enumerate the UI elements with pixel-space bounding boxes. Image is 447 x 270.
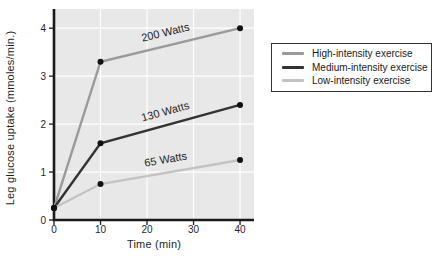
- x-axis-title: Time (min): [127, 238, 181, 250]
- chart-legend: High-intensity exercise Medium-intensity…: [271, 43, 432, 92]
- exercise-glucose-uptake-figure: 01020304001234200 Watts130 Watts65 Watts…: [0, 0, 447, 270]
- legend-item-medium-intensity: Medium-intensity exercise: [282, 61, 425, 74]
- x-tick-label: 40: [234, 224, 246, 235]
- legend-line-swatch-low: [282, 79, 304, 82]
- x-tick-label: 0: [51, 224, 57, 235]
- data-point: [98, 140, 104, 146]
- x-tick-label: 20: [141, 224, 153, 235]
- y-tick-label: 0: [40, 215, 46, 226]
- x-tick-label: 30: [188, 224, 200, 235]
- y-tick-label: 2: [40, 119, 46, 130]
- legend-label-medium: Medium-intensity exercise: [312, 62, 428, 73]
- legend-label-low: Low-intensity exercise: [312, 75, 410, 86]
- legend-line-swatch-high: [282, 52, 304, 55]
- y-axis-title: Leg glucose uptake (mmoles/min.): [4, 31, 16, 206]
- data-point: [237, 157, 243, 163]
- legend-label-high: High-intensity exercise: [312, 48, 413, 59]
- data-point: [51, 205, 57, 211]
- x-tick-label: 10: [95, 224, 107, 235]
- data-point: [98, 59, 104, 65]
- y-tick-label: 4: [40, 23, 46, 34]
- data-point: [98, 181, 104, 187]
- legend-item-high-intensity: High-intensity exercise: [282, 47, 425, 60]
- data-point: [237, 102, 243, 108]
- y-tick-label: 3: [40, 71, 46, 82]
- y-tick-label: 1: [40, 167, 46, 178]
- line-chart: 01020304001234200 Watts130 Watts65 Watts…: [0, 0, 447, 270]
- legend-line-swatch-medium: [282, 66, 304, 69]
- data-point: [237, 25, 243, 31]
- chart-plot-group: 01020304001234200 Watts130 Watts65 Watts: [40, 9, 254, 235]
- legend-item-low-intensity: Low-intensity exercise: [282, 74, 425, 87]
